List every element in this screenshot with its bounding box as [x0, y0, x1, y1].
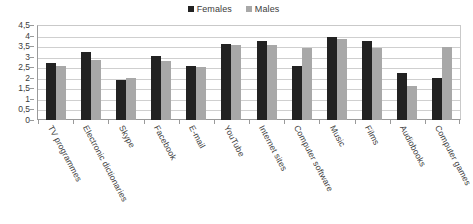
- y-tick-mark: [30, 88, 34, 89]
- bar-males[interactable]: [56, 66, 66, 120]
- bar-group: [144, 25, 179, 120]
- bar-males[interactable]: [161, 61, 171, 120]
- bar-females[interactable]: [116, 80, 126, 120]
- bar-females[interactable]: [186, 66, 196, 120]
- bar-group: [249, 25, 284, 120]
- y-tick-label: 0,5: [18, 105, 30, 114]
- legend-swatch-icon: [246, 6, 252, 12]
- x-category-label: Audiobooks: [398, 124, 427, 168]
- bar-group: [425, 25, 460, 120]
- bar-males[interactable]: [407, 86, 417, 120]
- bar-females[interactable]: [81, 52, 91, 120]
- x-category-label: E-mail: [187, 124, 206, 150]
- x-category-label: Computer software: [293, 124, 335, 193]
- bars-layer: [38, 25, 460, 120]
- bar-females[interactable]: [292, 66, 302, 120]
- bar-males[interactable]: [302, 48, 312, 120]
- bar-females[interactable]: [257, 41, 267, 120]
- legend-entry-males[interactable]: Males: [246, 4, 280, 14]
- y-tick-label: 2,5: [18, 63, 30, 72]
- x-axis-category-labels: TV programmesElectronic dictionariesSkyp…: [38, 124, 460, 224]
- chart-legend: FemalesMales: [0, 4, 467, 14]
- bar-group: [73, 25, 108, 120]
- y-axis: 00,511,522,533,544,5: [0, 25, 34, 120]
- bar-males[interactable]: [267, 45, 277, 120]
- x-category-label: Internet sites: [258, 124, 289, 172]
- bar-males[interactable]: [337, 39, 347, 120]
- legend-swatch-icon: [188, 6, 194, 12]
- bar-males[interactable]: [196, 67, 206, 120]
- bar-males[interactable]: [91, 60, 101, 120]
- bar-males[interactable]: [442, 47, 452, 120]
- bar-group: [284, 25, 319, 120]
- x-category-label: Facebook: [152, 124, 177, 162]
- bar-females[interactable]: [46, 63, 56, 120]
- y-tick-mark: [30, 109, 34, 110]
- bar-females[interactable]: [362, 41, 372, 120]
- y-tick-mark: [30, 25, 34, 26]
- y-tick-mark: [30, 120, 34, 121]
- bar-group: [179, 25, 214, 120]
- x-category-label: Films: [363, 124, 380, 146]
- bar-females[interactable]: [432, 78, 442, 120]
- x-category-label: Skype: [117, 124, 136, 149]
- bar-group: [214, 25, 249, 120]
- bar-group: [390, 25, 425, 120]
- legend-label: Males: [255, 4, 280, 14]
- bar-females[interactable]: [221, 44, 231, 120]
- bar-group: [319, 25, 354, 120]
- bar-females[interactable]: [327, 37, 337, 120]
- legend-entry-females[interactable]: Females: [188, 4, 232, 14]
- bar-group: [355, 25, 390, 120]
- y-tick-mark: [30, 57, 34, 58]
- y-tick-label: 4,5: [18, 21, 30, 30]
- x-category-label: Music: [328, 124, 346, 148]
- bar-males[interactable]: [372, 48, 382, 120]
- legend-label: Females: [197, 4, 232, 14]
- y-tick-label: 3,5: [18, 42, 30, 51]
- y-tick-mark: [30, 78, 34, 79]
- x-category-label: Computer games: [433, 124, 472, 187]
- y-tick-label: 1,5: [18, 84, 30, 93]
- y-tick-mark: [30, 99, 34, 100]
- bar-males[interactable]: [126, 78, 136, 120]
- bar-group: [108, 25, 143, 120]
- bar-females[interactable]: [397, 73, 407, 120]
- y-tick-mark: [30, 67, 34, 68]
- bar-males[interactable]: [231, 45, 241, 120]
- bar-group: [38, 25, 73, 120]
- x-category-label: TV programmes: [47, 124, 84, 183]
- x-category-label: YouTube: [222, 124, 246, 158]
- bar-females[interactable]: [151, 56, 161, 120]
- y-tick-mark: [30, 46, 34, 47]
- y-tick-mark: [30, 36, 34, 37]
